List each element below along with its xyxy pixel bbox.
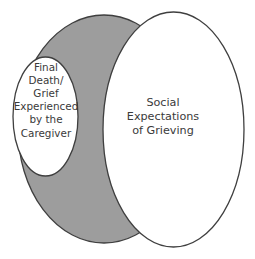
caregiver-grief-ellipse	[13, 57, 78, 176]
venn-diagram-svg	[0, 0, 255, 259]
social-expectations-ellipse	[103, 12, 244, 247]
diagram-canvas: Final Death/ Grief Experienced by the Ca…	[0, 0, 255, 259]
